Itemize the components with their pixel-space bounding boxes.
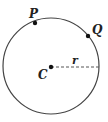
- label-c: C: [38, 68, 48, 82]
- label-p: P: [28, 7, 39, 21]
- label-r: r: [72, 54, 79, 67]
- circle-diagram: P Q C r: [0, 0, 108, 122]
- label-q: Q: [92, 23, 103, 37]
- point-q: [86, 34, 90, 38]
- point-p: [33, 21, 37, 25]
- center-point: [49, 65, 53, 69]
